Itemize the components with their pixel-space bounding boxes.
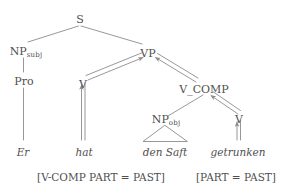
node-np-obj-label: NP bbox=[152, 113, 169, 126]
node-v-comp: V_COMP bbox=[179, 84, 229, 95]
syntax-tree-figure: S NPsubj VP Pro V V_COMP NPobj V Er hat … bbox=[0, 0, 287, 193]
feature-left-v-comp: [V-COMP PART = PAST] bbox=[37, 172, 165, 183]
node-np-obj-subscript: obj bbox=[169, 119, 180, 127]
tree-edges-svg bbox=[0, 0, 287, 193]
node-pro: Pro bbox=[14, 76, 33, 87]
node-v-comp-label: V_COMP bbox=[179, 83, 229, 96]
np-obj-triangle bbox=[143, 126, 187, 142]
node-v-right: V bbox=[235, 114, 243, 125]
edge-v-comp-to-np-obj bbox=[168, 95, 203, 116]
edge-v-right-to-v-comp-a bbox=[211, 96, 238, 115]
node-s-label: S bbox=[76, 13, 84, 26]
node-v-left-label: V bbox=[79, 78, 87, 91]
edge-v-comp-to-vp-a bbox=[156, 58, 197, 83]
node-v-left: V bbox=[79, 79, 87, 90]
node-pro-label: Pro bbox=[14, 75, 33, 88]
edge-s-to-np-subj bbox=[28, 26, 79, 42]
leaf-hat: hat bbox=[75, 147, 92, 158]
node-np-subj: NPsubj bbox=[10, 46, 43, 59]
node-vp-label: VP bbox=[140, 47, 155, 60]
node-s: S bbox=[76, 14, 84, 25]
edge-v-comp-to-vp-b bbox=[158, 54, 199, 79]
feature-right-part: [PART = PAST] bbox=[196, 172, 276, 183]
edge-v-left-to-vp-a bbox=[88, 58, 143, 81]
edge-s-to-vp bbox=[81, 26, 142, 44]
node-np-obj: NPobj bbox=[152, 114, 181, 127]
node-vp: VP bbox=[140, 48, 155, 59]
node-np-subj-subscript: subj bbox=[27, 51, 43, 59]
edge-v-left-to-vp-b bbox=[86, 53, 142, 76]
node-v-right-label: V bbox=[235, 113, 243, 126]
leaf-er: Er bbox=[17, 147, 30, 158]
node-np-subj-label: NP bbox=[10, 45, 27, 58]
leaf-getrunken: getrunken bbox=[210, 147, 265, 158]
leaf-den-saft: den Saft bbox=[143, 147, 188, 158]
